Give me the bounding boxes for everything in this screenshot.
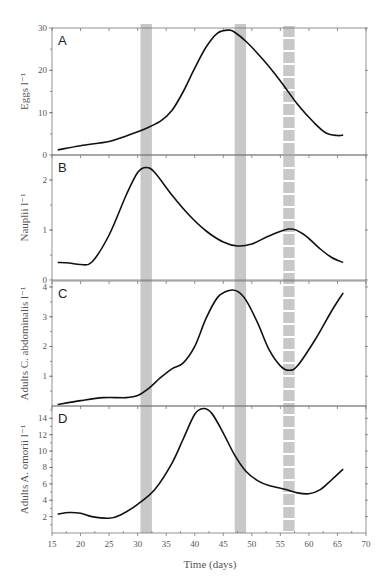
panel-letter: D [58, 411, 67, 426]
panel-frame [52, 406, 366, 533]
shaded-segment [283, 65, 294, 76]
x-tick-label: 60 [304, 539, 314, 549]
y-tick-label: 4 [43, 282, 48, 292]
x-tick-label: 25 [105, 539, 115, 549]
shaded-segment [283, 260, 294, 271]
y-axis-title: Nauplii l⁻¹ [18, 193, 30, 241]
shaded-segment [283, 52, 294, 63]
y-tick-label: 1 [43, 225, 48, 235]
x-tick-label: 20 [76, 539, 86, 549]
panels: 0102030Eggs l⁻¹A012Nauplii l⁻¹B1234Adult… [18, 23, 368, 533]
y-tick-label: 2 [43, 512, 48, 522]
panel-frame [52, 155, 366, 280]
series-line-a [58, 30, 343, 150]
y-tick-label: 14 [38, 413, 48, 423]
shaded-segment [283, 468, 294, 479]
panel-c: 1234Adults C. abdominalis l⁻¹C [18, 281, 368, 406]
panel-letter: A [58, 33, 67, 48]
y-tick-label: 2 [43, 175, 48, 185]
x-tick-label: 55 [276, 539, 286, 549]
y-tick-label: 20 [38, 65, 48, 75]
shaded-segment [283, 507, 294, 518]
x-tick-label: 35 [162, 539, 172, 549]
panel-frame [52, 28, 366, 155]
shaded-segment [283, 442, 294, 453]
panel-letter: C [58, 286, 67, 301]
shaded-segment [283, 377, 294, 388]
y-tick-label: 0 [43, 150, 48, 160]
shaded-segment [283, 416, 294, 427]
y-axis-title: Adults C. abdominalis l⁻¹ [18, 287, 30, 401]
panel-letter: B [58, 160, 67, 175]
series-line-b [58, 168, 343, 266]
panel-a: 0102030Eggs l⁻¹A [18, 23, 368, 160]
shaded-segment [283, 156, 294, 167]
shaded-segment [283, 312, 294, 323]
shaded-segment [283, 130, 294, 141]
shaded-segment [283, 286, 294, 297]
x-axis-title: Time (days) [183, 558, 236, 571]
x-tick-label: 50 [247, 539, 257, 549]
shaded-periods [140, 24, 294, 533]
chart: 0102030Eggs l⁻¹A012Nauplii l⁻¹B1234Adult… [0, 0, 389, 588]
x-tick-label: 15 [48, 539, 58, 549]
panel-d: 2468101214Adults A. omorii l⁻¹D [18, 406, 368, 533]
shaded-segment [283, 247, 294, 258]
series-line-d [58, 408, 343, 518]
y-tick-label: 12 [38, 430, 47, 440]
y-tick-label: 4 [43, 495, 48, 505]
shaded-segment [283, 39, 294, 50]
shaded-segment [283, 104, 294, 115]
shaded-segment [283, 195, 294, 206]
panel-frame [52, 281, 366, 406]
shaded-segment [283, 208, 294, 219]
shaded-period-2 [283, 26, 294, 531]
x-tick-label: 45 [219, 539, 229, 549]
shaded-segment [283, 429, 294, 440]
y-tick-label: 10 [38, 446, 48, 456]
x-tick-label: 40 [190, 539, 200, 549]
x-axis: 152025303540455055606570 [48, 531, 372, 549]
x-tick-label: 70 [362, 539, 372, 549]
panel-b: 012Nauplii l⁻¹B [18, 155, 368, 285]
y-tick-label: 2 [43, 341, 48, 351]
shaded-period-0 [140, 24, 151, 533]
x-tick-label: 65 [333, 539, 343, 549]
shaded-segment [283, 325, 294, 336]
y-axis-title: Adults A. omorii l⁻¹ [18, 425, 30, 514]
y-tick-label: 1 [43, 371, 48, 381]
shaded-segment [283, 169, 294, 180]
shaded-segment [283, 234, 294, 245]
shaded-segment [283, 351, 294, 362]
shaded-segment [283, 273, 294, 284]
shaded-segment [283, 299, 294, 310]
shaded-segment [283, 338, 294, 349]
y-tick-label: 8 [43, 462, 48, 472]
series-line-c [58, 290, 343, 405]
shaded-segment [283, 390, 294, 401]
shaded-segment [283, 520, 294, 531]
y-tick-label: 6 [43, 479, 48, 489]
shaded-segment [283, 117, 294, 128]
shaded-segment [283, 403, 294, 414]
shaded-segment [283, 182, 294, 193]
shaded-segment [283, 455, 294, 466]
y-tick-label: 30 [38, 23, 48, 33]
shaded-segment [283, 494, 294, 505]
y-tick-label: 10 [38, 108, 48, 118]
shaded-segment [283, 143, 294, 154]
y-tick-label: 3 [43, 312, 48, 322]
y-axis-title: Eggs l⁻¹ [18, 73, 30, 110]
x-tick-label: 30 [133, 539, 143, 549]
